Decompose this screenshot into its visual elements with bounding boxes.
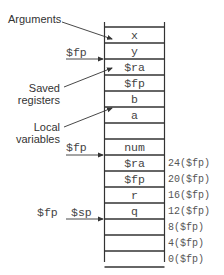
old-fp-label: $fp [66, 46, 87, 59]
stack-cell: x [131, 29, 138, 42]
local-variables-label-1: Local [34, 121, 60, 133]
stack-cell: $ra [124, 157, 145, 170]
offset-label: 20($fp) [168, 174, 210, 185]
offset-label: 4($fp) [168, 238, 204, 249]
stack-cell: $fp [124, 173, 145, 186]
offset-label: 8($fp) [168, 222, 204, 233]
bottom-sp-label: $sp [71, 206, 92, 219]
offset-label: 16($fp) [168, 190, 210, 201]
stack-cell: num [124, 141, 145, 154]
offset-label: 0($fp) [168, 254, 204, 265]
stack-cell: r [131, 189, 138, 202]
stack-cell: a [131, 109, 138, 122]
stack-cell: q [131, 205, 138, 218]
local-variables-label-2: variables [16, 133, 61, 145]
offset-labels: 24($fp)20($fp)16($fp)12($fp)8($fp)4($fp)… [168, 158, 210, 265]
stack-cell: b [131, 93, 138, 106]
stack-cell: y [131, 45, 138, 58]
stack-cell: $ra [124, 61, 145, 74]
offset-label: 24($fp) [168, 158, 210, 169]
offset-label: 12($fp) [168, 206, 210, 217]
arguments-label: Arguments [8, 13, 62, 25]
stack-cell: $fp [124, 77, 145, 90]
bottom-fp-label: $fp [37, 206, 58, 219]
saved-registers-label-2: registers [18, 94, 61, 106]
saved-registers-label-1: Saved [29, 82, 60, 94]
stack-frame-diagram: xy$ra$fpbanum$ra$fprq 24($fp)20($fp)16($… [0, 0, 224, 275]
new-fp-label: $fp [66, 141, 87, 154]
